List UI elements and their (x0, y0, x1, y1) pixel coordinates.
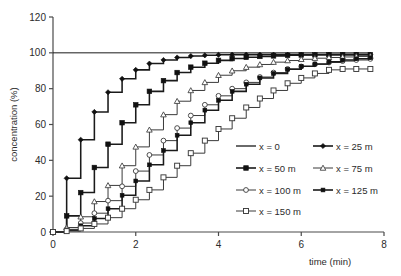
data-point-marker (106, 215, 111, 220)
data-point-marker (244, 55, 249, 60)
concentration-step-chart: 020406080100120 02468 x = 0x = 25 mx = 5… (0, 0, 401, 276)
data-point-marker (189, 121, 193, 125)
data-point-marker (244, 82, 248, 86)
data-point-marker (202, 138, 207, 143)
x-axis-title: time (min) (309, 256, 351, 267)
data-point-marker (244, 209, 249, 214)
y-tick-label: 120 (29, 12, 46, 23)
data-point-marker (175, 126, 180, 131)
data-point-marker (244, 166, 249, 171)
data-point-marker (188, 113, 193, 118)
data-point-marker (286, 67, 290, 71)
data-point-marker (133, 197, 138, 202)
data-point-marker (64, 214, 69, 219)
data-point-marker (78, 190, 83, 195)
data-point-marker (244, 105, 249, 110)
data-point-marker (299, 64, 303, 68)
data-point-marker (120, 206, 125, 211)
data-point-marker (216, 93, 221, 98)
data-point-marker (92, 217, 96, 221)
data-point-marker (64, 176, 69, 181)
y-axis-title: concentration (%) (8, 87, 19, 161)
data-point-marker (133, 102, 138, 107)
legend-label: x = 100 m (259, 185, 301, 196)
y-tick-label: 100 (29, 47, 46, 58)
data-point-marker (92, 211, 97, 216)
data-point-marker (216, 126, 221, 131)
data-point-marker (161, 78, 166, 83)
data-point-marker (120, 193, 124, 197)
data-point-marker (175, 163, 180, 168)
data-point-marker (119, 76, 124, 81)
legend-item-x-150-m[interactable]: x = 150 m (236, 206, 301, 217)
y-tick-label: 0 (40, 227, 46, 238)
legend-label: x = 75 m (336, 163, 373, 174)
legend-item-x-0[interactable]: x = 0 (236, 141, 280, 152)
data-point-marker (175, 133, 179, 137)
data-point-marker (147, 61, 152, 66)
data-point-marker (106, 198, 111, 203)
data-point-marker (368, 66, 373, 71)
data-point-marker (258, 54, 263, 59)
data-point-marker (188, 151, 193, 156)
y-tick-label: 20 (35, 191, 47, 202)
legend-label: x = 50 m (259, 163, 296, 174)
data-point-marker (147, 153, 152, 158)
data-point-marker (230, 89, 234, 93)
data-point-marker (257, 96, 262, 101)
data-point-marker (78, 137, 83, 142)
y-tick-label: 80 (35, 83, 47, 94)
data-point-marker (285, 81, 290, 86)
data-point-marker (321, 188, 325, 192)
series-x-75-m (50, 53, 373, 234)
data-point-marker (217, 98, 221, 102)
data-point-marker (188, 65, 193, 70)
legend-item-x-75-m[interactable]: x = 75 m (313, 163, 373, 174)
chart-legend: x = 0x = 25 mx = 50 mx = 75 mx = 100 mx … (236, 141, 378, 217)
data-point-marker (120, 184, 125, 189)
x-tick-label: 4 (216, 239, 222, 250)
data-point-marker (105, 90, 110, 95)
data-point-marker (161, 175, 166, 180)
x-tick-label: 0 (50, 239, 56, 250)
data-point-marker (313, 62, 317, 66)
data-point-marker (92, 109, 97, 114)
data-point-marker (134, 179, 138, 183)
data-point-marker (161, 57, 166, 62)
data-point-marker (216, 58, 221, 63)
data-series-layer (50, 52, 373, 235)
series-x-50-m (51, 52, 373, 234)
x-axis-tick-labels: 02468 (50, 239, 387, 250)
data-point-marker (354, 66, 359, 71)
data-point-marker (299, 75, 304, 80)
x-tick-label: 2 (133, 239, 139, 250)
data-point-marker (51, 230, 56, 235)
legend-label: x = 150 m (259, 206, 301, 217)
data-point-marker (92, 221, 97, 226)
data-point-marker (202, 53, 207, 58)
data-point-marker (230, 116, 235, 121)
data-point-marker (354, 57, 358, 61)
data-point-marker (203, 108, 207, 112)
data-point-marker (272, 72, 276, 76)
x-tick-label: 6 (298, 239, 304, 250)
data-point-marker (175, 70, 180, 75)
data-point-marker (258, 76, 262, 80)
data-point-marker (320, 143, 325, 148)
data-point-marker (368, 56, 372, 60)
data-point-marker (92, 165, 97, 170)
y-axis-tick-labels: 020406080100120 (29, 12, 46, 238)
data-point-marker (161, 138, 166, 143)
y-tick-label: 60 (35, 119, 47, 130)
data-point-marker (271, 88, 276, 93)
legend-item-x-25-m[interactable]: x = 25 m (313, 141, 373, 152)
chart-figure: 020406080100120 02468 x = 0x = 25 mx = 5… (0, 0, 401, 276)
legend-item-x-50-m[interactable]: x = 50 m (236, 163, 296, 174)
data-point-marker (230, 56, 235, 61)
data-point-marker (120, 120, 125, 125)
legend-item-x-100-m[interactable]: x = 100 m (236, 185, 301, 196)
series-x-150-m (51, 66, 373, 234)
legend-label: x = 25 m (336, 141, 373, 152)
data-point-marker (312, 71, 317, 76)
legend-item-x-125-m[interactable]: x = 125 m (313, 185, 378, 196)
